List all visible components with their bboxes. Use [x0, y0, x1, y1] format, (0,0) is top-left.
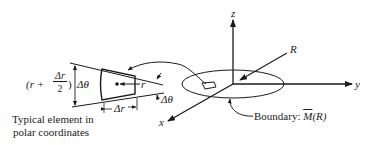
delta-theta-left-label: Δθ: [77, 79, 89, 90]
boundary-label: Boundary: M(R): [254, 111, 326, 122]
r-label: r: [141, 79, 145, 90]
leader-curve-element: [128, 62, 206, 84]
fraction-denominator: 2: [53, 83, 67, 94]
x-axis: [168, 84, 233, 121]
caption-line-1: Typical element in: [12, 114, 94, 125]
x-axis-label: x: [159, 117, 164, 128]
radius-arrow: [240, 53, 287, 80]
caption-line-2: polar coordinates: [13, 127, 89, 138]
delta-r-label: Δr: [114, 103, 125, 114]
delta-theta-right-label: Δθ: [161, 94, 173, 105]
radius-label: R: [290, 44, 297, 55]
height-prefix: (r +: [26, 79, 44, 90]
leader-curve-boundary: [230, 99, 253, 116]
fraction-numerator: Δr: [53, 70, 67, 82]
boundary-arg: (R): [312, 110, 326, 122]
height-suffix: ): [68, 79, 72, 90]
polar-element-diagram: z y x R Boundary: M(R) (r + Δr 2 ) Δθ r …: [0, 0, 369, 145]
z-axis-label: z: [231, 8, 235, 19]
y-axis-label: y: [355, 79, 360, 90]
boundary-symbol: M: [303, 110, 312, 122]
